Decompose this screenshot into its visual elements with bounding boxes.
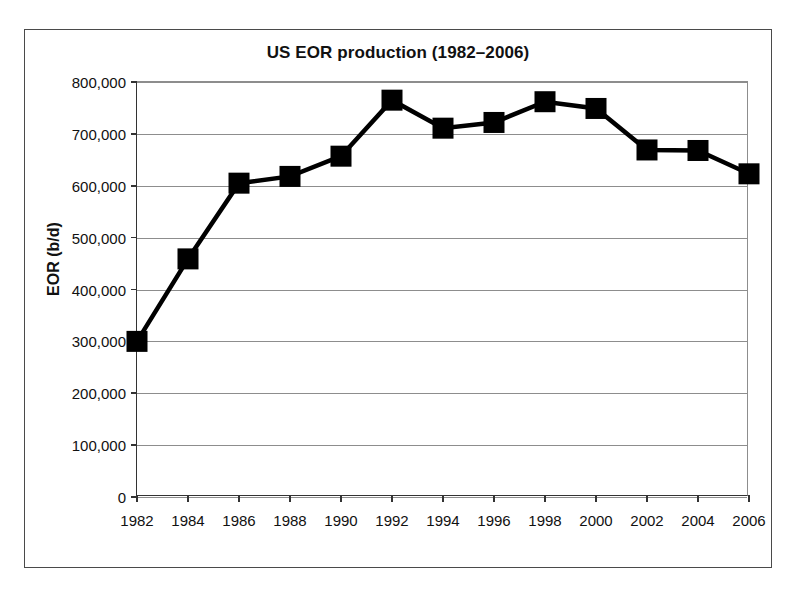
x-axis-tick-label: 1998: [528, 512, 561, 529]
chart-figure: US EOR production (1982–2006) EOR (b/d) …: [0, 0, 794, 591]
y-axis-tick-label: 500,000: [72, 229, 126, 246]
data-point-marker: [229, 173, 250, 194]
data-point-marker: [535, 91, 556, 112]
y-axis-tick-label: 200,000: [72, 385, 126, 402]
x-axis-tick-label: 1988: [273, 512, 306, 529]
x-axis-tick-label: 1986: [222, 512, 255, 529]
data-point-marker: [178, 248, 199, 269]
y-axis-tick-label: 800,000: [72, 74, 126, 91]
x-axis-tick-label: 1994: [426, 512, 459, 529]
data-point-marker: [280, 166, 301, 187]
y-axis-tick-label: 300,000: [72, 333, 126, 350]
data-point-marker: [739, 163, 760, 184]
data-point-marker: [127, 331, 148, 352]
series-plot: [137, 82, 749, 497]
x-axis-tick-label: 1984: [171, 512, 204, 529]
x-axis-tick-label: 1982: [120, 512, 153, 529]
chart-title: US EOR production (1982–2006): [24, 43, 772, 63]
y-axis-tick-label: 400,000: [72, 281, 126, 298]
y-axis-title: EOR (b/d): [45, 189, 63, 329]
x-axis-tick-label: 2006: [732, 512, 765, 529]
data-point-marker: [586, 98, 607, 119]
data-point-marker: [637, 139, 658, 160]
data-point-marker: [331, 146, 352, 167]
x-axis-tick-label: 2000: [579, 512, 612, 529]
y-axis-tick-label: 100,000: [72, 437, 126, 454]
data-point-marker: [484, 112, 505, 133]
x-axis-tick-label: 2004: [681, 512, 714, 529]
y-axis-tick-label: 700,000: [72, 125, 126, 142]
data-point-marker: [382, 90, 403, 111]
data-point-marker: [433, 118, 454, 139]
plot-area: 800,000700,000600,000500,000400,000300,0…: [136, 81, 748, 496]
y-axis-tick-label: 600,000: [72, 177, 126, 194]
data-point-marker: [688, 140, 709, 161]
y-axis-tick-label: 0: [118, 489, 126, 506]
series-markers-group: [127, 90, 760, 352]
x-axis-tick-label: 1996: [477, 512, 510, 529]
x-axis-tick-label: 2002: [630, 512, 663, 529]
x-axis-tick-label: 1992: [375, 512, 408, 529]
x-axis-tick-label: 1990: [324, 512, 357, 529]
